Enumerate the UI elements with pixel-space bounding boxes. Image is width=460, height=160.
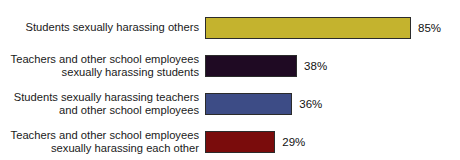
- bar-fill: [205, 131, 275, 153]
- bar-row: Teachers and other school employees sexu…: [0, 123, 460, 160]
- bar-category-label: Teachers and other school employees sexu…: [0, 129, 205, 156]
- bar-category-label: Students sexually harassing others: [0, 21, 205, 35]
- bar-value-label: 29%: [282, 136, 305, 148]
- bar-track: 29%: [205, 123, 460, 160]
- bar-track: 36%: [205, 85, 460, 123]
- bar-category-label: Teachers and other school employees sexu…: [0, 53, 205, 80]
- bar-value-label: 36%: [299, 98, 322, 110]
- bar-value-label: 85%: [418, 22, 441, 34]
- bar-value-label: 38%: [304, 60, 327, 72]
- bar-rows: Students sexually harassing others 85% T…: [0, 9, 460, 160]
- bar-row: Teachers and other school employees sexu…: [0, 47, 460, 85]
- bar-chart: Students sexually harassing others 85% T…: [0, 0, 460, 160]
- bar-fill: [205, 93, 292, 115]
- bar-row: Students sexually harassing teachers and…: [0, 85, 460, 123]
- bar-row: Students sexually harassing others 85%: [0, 9, 460, 47]
- bar-track: 85%: [205, 9, 460, 47]
- chart-title: [0, 0, 460, 3]
- bar-category-label: Students sexually harassing teachers and…: [0, 91, 205, 118]
- bar-track: 38%: [205, 47, 460, 85]
- bar-fill: [205, 17, 411, 39]
- bar-fill: [205, 55, 297, 77]
